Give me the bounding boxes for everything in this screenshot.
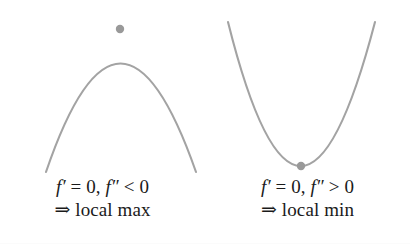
caption-line-2-max: ⇒ local max [0, 199, 205, 221]
local-min-label: local min [277, 199, 354, 220]
caption-line-1-min: f′ = 0, f″ > 0 [205, 176, 410, 198]
caption-line-2-min: ⇒ local min [205, 199, 410, 221]
caption-local-max: f′ = 0, f″ < 0 ⇒ local max [0, 176, 205, 222]
caption-line-1-max: f′ = 0, f″ < 0 [0, 176, 205, 198]
panel-local-min: f′ = 0, f″ > 0 ⇒ local min [205, 0, 410, 250]
figure-root: f′ = 0, f″ < 0 ⇒ local max f′ = 0, f″ > … [0, 0, 410, 250]
critical-point-dot-max [116, 25, 124, 33]
plot-area-local-max [0, 0, 205, 178]
greater-than-sign-min: > [324, 176, 345, 197]
value-zero-first-max: 0, [86, 176, 100, 197]
critical-point-dot-min [297, 162, 305, 170]
panel-local-max: f′ = 0, f″ < 0 ⇒ local max [0, 0, 205, 250]
local-max-label: local max [70, 199, 150, 220]
less-than-sign-max: < [119, 176, 140, 197]
plot-area-local-min [205, 0, 410, 178]
prime-mark-second-min: ″ [316, 176, 324, 197]
implies-arrow-icon-min: ⇒ [261, 199, 277, 220]
curve-local-max [46, 64, 196, 173]
equals-sign-min: = [271, 176, 292, 197]
prime-mark-second-max: ″ [111, 176, 119, 197]
equals-sign-max: = [66, 176, 87, 197]
value-zero-second-max: 0 [139, 176, 149, 197]
caption-local-min: f′ = 0, f″ > 0 ⇒ local min [205, 176, 410, 222]
page-baseline-rule [0, 243, 410, 244]
value-zero-first-min: 0, [291, 176, 305, 197]
curve-local-min [228, 22, 375, 166]
value-zero-second-min: 0 [344, 176, 354, 197]
panels-container: f′ = 0, f″ < 0 ⇒ local max f′ = 0, f″ > … [0, 0, 410, 250]
implies-arrow-icon-max: ⇒ [54, 199, 70, 220]
